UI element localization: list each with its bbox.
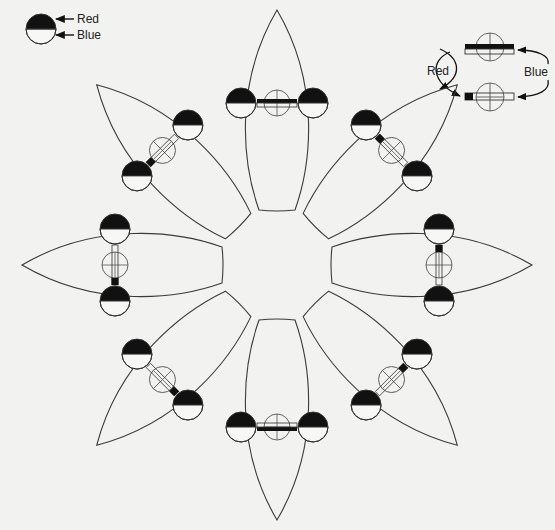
- red-blue-marker-right: [298, 88, 328, 118]
- red-blue-marker-left: [173, 390, 203, 420]
- red-blue-marker-left: [226, 88, 256, 118]
- legend-left: Red Blue: [26, 12, 101, 44]
- legend-full-bar-symbol: [465, 33, 514, 61]
- red-blue-marker-left: [122, 161, 152, 191]
- legend-short-end-symbol: [465, 83, 514, 111]
- red-blue-marker-right: [173, 110, 203, 140]
- petal-top-right: [275, 44, 498, 267]
- legend-red-label: Red: [77, 12, 99, 26]
- legend-right: Red Blue: [427, 33, 548, 111]
- legend-blue-label: Blue: [77, 28, 101, 42]
- crosshair-indicator: [257, 414, 297, 440]
- blue-curved-arrow-icon: [518, 50, 548, 64]
- petal-bottom-left: [56, 263, 279, 486]
- red-blue-marker-right: [100, 214, 130, 244]
- legend-half-circle-icon: [26, 14, 56, 44]
- petal-top-left: [56, 44, 279, 267]
- red-blue-marker-left: [424, 214, 454, 244]
- flower: [22, 10, 532, 520]
- blue-curved-arrow-down-icon: [518, 80, 548, 97]
- red-blue-marker-left: [100, 286, 130, 316]
- petal-bottom-right: [275, 263, 498, 486]
- petal-diagram: Red Blue Red Blue: [0, 0, 555, 530]
- petal-top: [226, 10, 328, 211]
- legend-right-red-label: Red: [427, 64, 449, 78]
- red-blue-marker-right: [424, 286, 454, 316]
- crosshair-indicator: [102, 245, 128, 285]
- crosshair-indicator: [257, 90, 297, 116]
- petal-right: [331, 214, 532, 316]
- red-blue-marker-right: [351, 390, 381, 420]
- red-blue-marker-left: [298, 412, 328, 442]
- legend-right-blue-label: Blue: [524, 65, 548, 79]
- red-blue-marker-right: [226, 412, 256, 442]
- red-blue-marker-left: [351, 110, 381, 140]
- petal-bottom: [226, 319, 328, 520]
- red-blue-marker-right: [402, 161, 432, 191]
- red-blue-marker-right: [122, 339, 152, 369]
- crosshair-indicator: [426, 245, 452, 285]
- red-blue-marker-left: [402, 339, 432, 369]
- diagram-canvas: Red Blue Red Blue: [0, 0, 555, 530]
- petal-left: [22, 214, 223, 316]
